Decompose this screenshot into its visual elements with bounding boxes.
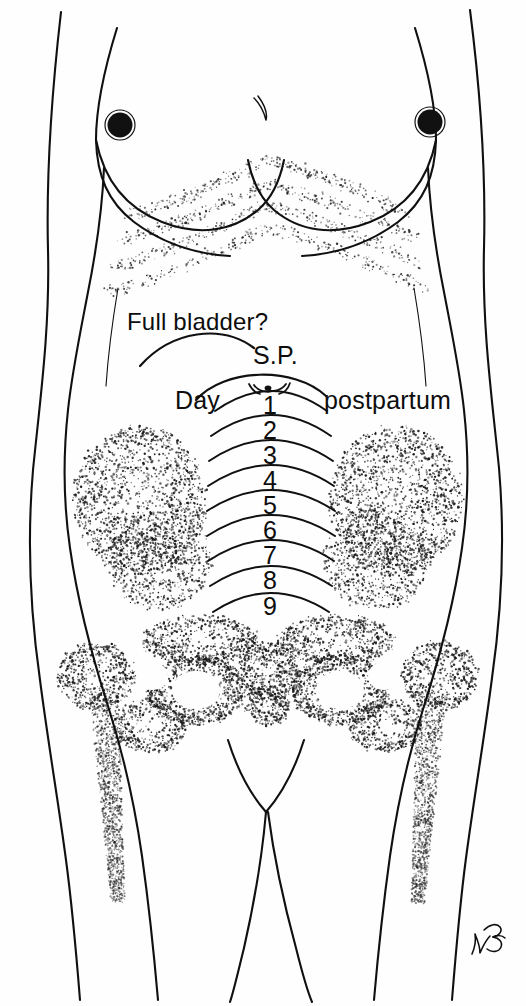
day-number-1: 1 bbox=[253, 393, 287, 418]
day-label: Day bbox=[175, 386, 220, 415]
full-bladder-arc bbox=[140, 334, 254, 366]
day-number-4: 4 bbox=[253, 468, 287, 493]
day-number-6: 6 bbox=[253, 518, 287, 543]
symphysis-pubis-label: S.P. bbox=[253, 341, 298, 370]
artist-signature bbox=[466, 916, 512, 960]
full-bladder-label: Full bladder? bbox=[127, 308, 268, 336]
day-number-5: 5 bbox=[253, 493, 287, 518]
day-number-7: 7 bbox=[253, 543, 287, 568]
postpartum-label: postpartum bbox=[324, 386, 451, 415]
day-number-9: 9 bbox=[253, 594, 287, 619]
day-number-2: 2 bbox=[253, 418, 287, 443]
day-number-8: 8 bbox=[253, 568, 287, 593]
day-number-3: 3 bbox=[253, 443, 287, 468]
illustration-canvas: Full bladder? S.P. Day postpartum 123456… bbox=[0, 0, 526, 1006]
